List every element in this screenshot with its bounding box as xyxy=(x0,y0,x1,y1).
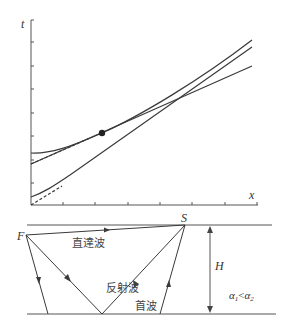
travel-time-chart: t x xyxy=(21,17,258,205)
arrow-up-icon xyxy=(207,226,213,233)
velocity-condition: α1<α2 xyxy=(229,289,254,303)
reflected-wave-curve xyxy=(31,40,252,153)
head-wave-label: 首波 xyxy=(135,299,157,313)
source-label: F xyxy=(16,229,25,243)
thickness-label: H xyxy=(214,259,225,273)
reflected-wave-label: 反射波 xyxy=(106,281,139,295)
arrow-icon xyxy=(36,277,41,284)
arrow-down-icon xyxy=(207,306,213,313)
arrow-icon xyxy=(166,280,171,287)
diagram-canvas: t x F S 直達波 反射波 首波 xyxy=(0,0,291,330)
x-axis-label: x xyxy=(248,188,255,202)
direct-wave-label: 直達波 xyxy=(72,236,105,250)
direct-wave-line xyxy=(31,47,252,197)
critical-point-dot xyxy=(99,130,105,136)
layer-model: F S 直達波 反射波 首波 H α1<α2 xyxy=(16,211,276,314)
receiver-label: S xyxy=(181,211,187,225)
arrow-icon xyxy=(104,228,110,233)
y-axis-label: t xyxy=(21,17,25,31)
